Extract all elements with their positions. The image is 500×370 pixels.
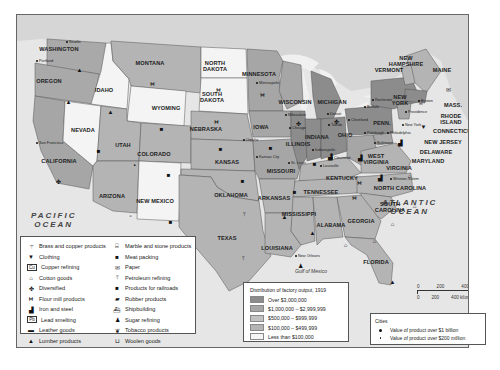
factory-output-legend: Distribution of factory output, 1919 Ove…	[243, 282, 349, 342]
city-dot-icon	[285, 114, 287, 116]
legend-label: Petroleum refining	[125, 275, 170, 281]
state-label: ALABAMA	[317, 222, 346, 228]
meat-packing-icon: ■	[267, 145, 274, 151]
brass-icon: ⚚	[27, 243, 35, 250]
state-label: MISSOURI	[267, 168, 295, 174]
cotton-icon: ⌂	[389, 221, 396, 227]
city-label: San Francisco	[39, 141, 63, 145]
city-dot-icon	[387, 132, 389, 134]
legend-label: Woolen goods	[125, 338, 161, 344]
legend-label: Flour mill products	[39, 296, 85, 302]
legend-woolen: ⊔Woolen goods	[113, 336, 191, 347]
city-dot-icon	[372, 99, 374, 101]
legend-label: Marble and stone products	[125, 243, 191, 249]
city-label: Cleveland	[351, 118, 368, 122]
cities-label: Value of product over $1 billion	[390, 327, 458, 333]
cotton-icon: ⌂	[371, 238, 378, 244]
cotton-icon: ⌂	[342, 242, 349, 248]
city-label: Detroit	[330, 112, 341, 116]
state-label: MINNESOTA	[242, 71, 276, 77]
output-label: $100,000 – $499,999	[268, 325, 317, 331]
city-dot-icon	[256, 82, 258, 84]
city-dot-icon	[312, 149, 314, 151]
industry-legend: ⚚Brass and copper products ▼Clothing CuC…	[20, 236, 196, 334]
railroad-icon: ■	[95, 148, 102, 154]
state-label: PENN.	[373, 120, 391, 126]
small-city-dot-icon	[380, 337, 382, 339]
legend-label: Clothing	[39, 254, 60, 260]
output-legend-item: Less than $100,000	[250, 332, 348, 341]
state-label: OHIO	[338, 132, 353, 138]
flour-mill-icon: Ħ	[27, 296, 35, 302]
city-label: Buffalo	[367, 105, 379, 109]
state-label: MASS.	[444, 102, 462, 108]
scale-miles-400: 400 miles	[461, 284, 469, 289]
city-label: Portland	[39, 59, 53, 63]
city-label: St. Louis	[291, 161, 306, 165]
lead-smelting-icon: ▪	[131, 162, 138, 168]
city-label: Minneapolis	[259, 81, 279, 85]
state-label: SOUTH CAROLINA	[375, 201, 405, 213]
legend-shipbuilding: ⛴Shipbuilding	[113, 304, 191, 315]
state-label: GEORGIA	[347, 218, 374, 224]
city-label: Milwaukee	[288, 113, 306, 117]
city-dot-icon	[328, 124, 330, 126]
cities-legend-item: Value of product over $1 billion	[379, 326, 485, 334]
meat-packing-icon: ■	[217, 146, 224, 152]
city-label: Rochester	[375, 98, 392, 102]
city-dot-icon	[256, 156, 258, 158]
legend-cotton: ⌂Cotton goods	[27, 273, 106, 284]
scale-km-200: 200	[432, 295, 440, 300]
city-dot-icon	[348, 119, 350, 121]
woolen-icon: ⊔	[113, 337, 121, 344]
city-dot-icon	[402, 124, 404, 126]
state-label: WASHINGTON	[39, 46, 78, 52]
state-label: RHODE ISLAND	[440, 113, 461, 125]
output-label: $1,000,000 – $2,999,999	[268, 306, 326, 312]
city-dot-icon	[405, 111, 407, 113]
iron-steel-icon: ▟	[357, 155, 364, 161]
output-legend-item: $100,000 – $499,999	[250, 323, 348, 332]
flour-mill-icon: Ħ	[149, 81, 156, 87]
state-label: DELAWARE	[420, 149, 453, 155]
tobacco-icon: ❦	[113, 327, 121, 334]
sugar-icon: ♟	[297, 263, 304, 269]
city-dot-icon	[289, 127, 291, 129]
city-label: Cincinnati	[334, 156, 351, 160]
flour-mill-icon: Ħ	[351, 195, 358, 201]
cotton-icon: ⌂	[411, 203, 418, 209]
copper-refining-icon: ▫	[127, 213, 134, 219]
state-label: TEXAS	[217, 235, 236, 241]
state-label: ILLINOIS	[286, 141, 310, 147]
state-label: MAINE	[433, 67, 452, 73]
large-city-dot-icon	[379, 329, 382, 332]
copper-refining-icon: Cu	[27, 264, 37, 271]
legend-copper: CuCopper refining	[27, 262, 106, 273]
city-dot-icon	[364, 132, 366, 134]
flour-mill-icon: Ħ	[213, 119, 220, 125]
flour-mill-icon: Ħ	[356, 180, 363, 186]
petroleum-icon: ⫯	[241, 211, 248, 217]
marble-icon: ⌸	[113, 243, 121, 250]
state-label: ARIZONA	[99, 193, 125, 199]
legend-label: Cotton goods	[39, 275, 72, 281]
rubber-icon: ▰	[113, 295, 121, 302]
city-dot-icon	[36, 60, 38, 62]
legend-label: Sugar refining	[125, 317, 160, 323]
city-dot-icon	[390, 178, 392, 180]
iron-steel-icon: ▟	[27, 306, 35, 313]
legend-label: Lumber products	[39, 338, 81, 344]
legend-diversified: ✤Diversified	[27, 283, 106, 294]
state-label: FLORIDA	[363, 259, 389, 265]
legend-marble: ⌸Marble and stone products	[113, 241, 191, 252]
lumber-icon: ▲	[76, 67, 83, 73]
cotton-icon: ⌂	[406, 173, 413, 179]
industry-legend-right: ⌸Marble and stone products ■Meat packing…	[113, 241, 191, 346]
state-label: WEST VIRGINIA	[363, 153, 389, 165]
state-label: WISCONSIN	[278, 99, 311, 105]
petroleum-icon: ⫯	[113, 274, 121, 281]
legend-label: Leather goods	[39, 327, 75, 333]
legend-meat: ■Meat packing	[113, 252, 191, 263]
railroad-icon: ■	[167, 219, 174, 225]
legend-label: Tobacco products	[125, 327, 169, 333]
